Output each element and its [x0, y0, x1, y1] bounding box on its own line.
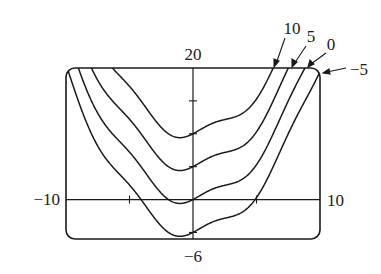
curve-label-neg5: −5: [350, 60, 368, 79]
arrowhead-0: [308, 60, 314, 67]
ymin-label: −6: [184, 247, 202, 266]
arrow-0: [311, 53, 326, 64]
xmax-label: 10: [327, 191, 344, 210]
arrowhead-neg5: [323, 69, 330, 74]
curve-label-5: 5: [307, 27, 316, 46]
graph-window: 20 −6 −10 10 10 5 0 −5: [0, 0, 381, 274]
xmin-label: −10: [33, 190, 60, 209]
ymax-label: 20: [185, 45, 202, 64]
curve-label-0: 0: [327, 35, 336, 54]
arrowhead-10: [274, 59, 279, 67]
axes: [66, 68, 320, 239]
curve-label-10: 10: [284, 19, 301, 38]
